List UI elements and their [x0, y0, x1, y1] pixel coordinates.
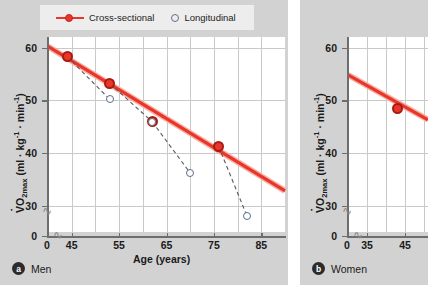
open-circle-icon: [171, 14, 179, 22]
y-tick: [42, 153, 47, 154]
legend: Cross-sectional Longitudinal: [40, 5, 254, 30]
x-tick-label: 45: [60, 239, 84, 251]
x-tick: [119, 233, 120, 238]
panel-badge-b: b: [312, 262, 325, 275]
x-axis-break-icon-women: ∿: [353, 229, 362, 241]
x-tick-label: 55: [107, 239, 131, 251]
panel-badge-a: a: [12, 262, 25, 275]
data-point-cross-sectional: [213, 141, 224, 152]
x-tick: [214, 233, 215, 238]
data-point-cross-sectional: [104, 78, 115, 89]
panel-caption-text-men: Men: [31, 263, 51, 275]
y-tick: [42, 100, 47, 101]
panel-men: Cross-sectional Longitudinal 030405060 0…: [0, 0, 288, 285]
y-axis-label-men: VO2max (ml · kg-1 · min-1): [12, 93, 29, 213]
x-tick-label: 45: [393, 239, 417, 251]
panel-caption-text-women: Women: [331, 263, 367, 275]
x-tick: [72, 233, 73, 238]
line-marker-icon: [56, 13, 84, 23]
data-point-longitudinal: [186, 169, 194, 177]
y-tick: [342, 153, 347, 154]
x-tick: [167, 233, 168, 238]
y-tick: [342, 48, 347, 49]
y-tick: [42, 48, 47, 49]
x-tick-label: 75: [202, 239, 226, 251]
legend-entry-longitudinal: Longitudinal: [171, 12, 235, 23]
y-tick: [342, 100, 347, 101]
y-tick: [42, 236, 47, 237]
markers-men: [48, 37, 285, 232]
panel-caption-men: a Men: [12, 262, 51, 275]
plot-area-men: [48, 37, 285, 232]
y-tick: [342, 236, 347, 237]
plot-area-women: [348, 37, 428, 232]
figure-vo2max-vs-age: Cross-sectional Longitudinal 030405060 0…: [0, 0, 428, 285]
y-tick-label: 60: [15, 42, 37, 54]
y-axis-break-icon-women: ∿: [342, 205, 351, 217]
data-point-cross-sectional: [392, 103, 403, 114]
x-axis-break-icon: ∿: [53, 229, 62, 241]
x-tick: [405, 233, 406, 238]
markers-women: [348, 37, 428, 232]
y-tick-label: 0: [315, 230, 337, 242]
y-tick-label: 60: [315, 42, 337, 54]
y-axis-label-subscript: 2max: [20, 179, 29, 198]
y-axis-break-icon: ∿: [42, 205, 51, 217]
x-axis-label-men: Age (years): [133, 253, 190, 265]
y-tick-label: 0: [15, 230, 37, 242]
panel-women: 030405060 03545 ∿ ∿ VO2max (ml · kg-1 · …: [300, 0, 428, 285]
panel-caption-women: b Women: [312, 262, 367, 275]
legend-entry-cross-sectional: Cross-sectional: [56, 12, 154, 23]
legend-label-longitudinal: Longitudinal: [184, 12, 235, 23]
x-tick: [367, 233, 368, 238]
panel-divider: [288, 0, 300, 285]
data-point-longitudinal: [106, 95, 114, 103]
data-point-longitudinal: [243, 212, 251, 220]
x-tick-label: 85: [249, 239, 273, 251]
legend-label-cross-sectional: Cross-sectional: [89, 12, 154, 23]
x-tick-label: 65: [155, 239, 179, 251]
x-tick: [261, 233, 262, 238]
y-axis-label-women: VO2max (ml · kg-1 · min-1): [312, 93, 329, 213]
data-point-cross-sectional: [62, 51, 73, 62]
